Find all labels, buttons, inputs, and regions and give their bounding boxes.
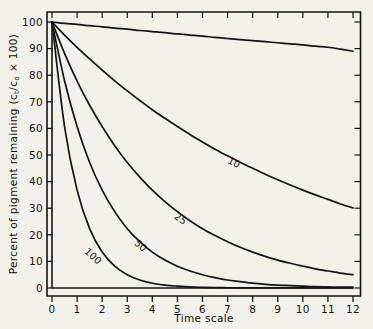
curve-rate-100 <box>52 22 353 288</box>
x-tick-label-3: 3 <box>124 303 131 315</box>
x-tick-label-10: 10 <box>296 303 310 315</box>
pigment-decay-chart: 0123456789101112 0102030405060708090100 … <box>0 0 373 329</box>
y-tick-label-40: 40 <box>29 175 43 187</box>
y-tick-label-90: 90 <box>29 42 43 54</box>
y-axis-title-mid: /c <box>7 81 19 91</box>
curve-labels: 102550100 <box>82 155 242 267</box>
x-tick-label-8: 8 <box>249 303 256 315</box>
decay-curves <box>52 22 353 288</box>
x-axis-title: Time scale <box>173 312 234 324</box>
y-tick-label-60: 60 <box>29 122 43 134</box>
svg-text:Percent of pigment remaining (: Percent of pigment remaining (ct/co × 10… <box>7 34 21 275</box>
y-tick-label-100: 100 <box>22 16 43 28</box>
x-tick-label-12: 12 <box>346 303 360 315</box>
x-tick-label-2: 2 <box>99 303 106 315</box>
y-tick-label-0: 0 <box>36 282 43 294</box>
y-axis-tick-labels: 0102030405060708090100 <box>22 16 43 294</box>
y-axis-title: Percent of pigment remaining (ct/co × 10… <box>7 34 21 275</box>
x-tick-label-1: 1 <box>74 303 81 315</box>
x-tick-label-11: 11 <box>321 303 335 315</box>
y-tick-label-70: 70 <box>29 96 43 108</box>
x-tick-label-9: 9 <box>274 303 281 315</box>
y-tick-label-30: 30 <box>29 202 43 214</box>
y-tick-label-10: 10 <box>29 255 43 267</box>
y-axis-title-lead: Percent of pigment remaining (c <box>7 94 19 274</box>
curve-rate-50 <box>52 22 353 287</box>
y-tick-label-80: 80 <box>29 69 43 81</box>
figure-page: 0123456789101112 0102030405060708090100 … <box>0 0 373 329</box>
curve-label-rate-25: 25 <box>172 210 189 226</box>
y-axis-title-tail: × 100) <box>7 34 19 76</box>
y-tick-label-50: 50 <box>29 149 43 161</box>
y-tick-label-20: 20 <box>29 229 43 241</box>
curve-unlabeled <box>52 22 353 51</box>
x-tick-label-4: 4 <box>149 303 156 315</box>
curve-rate-25 <box>52 22 353 275</box>
curve-label-rate-50: 50 <box>133 237 150 254</box>
x-tick-label-0: 0 <box>49 303 56 315</box>
